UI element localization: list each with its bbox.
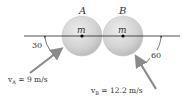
- diagram-canvas: A B m m 30 60 vA = 9 m/s vB = 12.2 m/s: [0, 0, 186, 98]
- angle-a-label: 30: [32, 41, 42, 50]
- ball-b-label: B: [118, 5, 126, 16]
- angle-b-label: 60: [151, 51, 161, 60]
- velocity-arrow-a: [30, 50, 60, 73]
- angle-60-arc-icon: [157, 38, 161, 50]
- velocity-a-value: = 9 m/s: [16, 75, 48, 84]
- collision-diagram: A B m m 30 60 vA = 9 m/s vB = 12.2 m/s: [0, 0, 186, 98]
- angle-30-arc-icon: [45, 38, 50, 50]
- ball-a-mass-label: m: [77, 25, 86, 35]
- velocity-a-label: vA = 9 m/s: [7, 75, 48, 85]
- angle-60-leader-icon: [146, 58, 150, 63]
- ball-a-label: A: [78, 5, 86, 16]
- velocity-b-value: = 12.2 m/s: [99, 86, 143, 95]
- velocity-b-label: vB = 12.2 m/s: [90, 86, 143, 96]
- ball-b-mass-label: m: [118, 25, 127, 35]
